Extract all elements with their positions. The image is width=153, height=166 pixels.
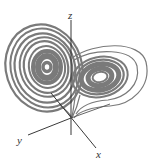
z-axis-label: z — [67, 9, 73, 21]
left-lobe — [0, 14, 94, 121]
right-lobe — [68, 46, 147, 118]
lorenz-attractor-figure: z y x — [0, 0, 153, 166]
y-axis-label: y — [16, 134, 22, 146]
x-axis — [51, 93, 96, 148]
x-axis-label: x — [95, 148, 101, 160]
y-axis — [28, 118, 71, 135]
